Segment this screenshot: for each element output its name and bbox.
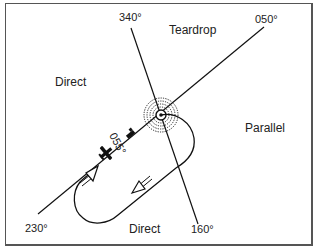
bearing-230-label: 230°: [25, 223, 48, 234]
bearing-160-label: 160°: [191, 224, 214, 235]
radial-340-160-line: [131, 28, 198, 224]
region-teardrop-label: Teardrop: [169, 24, 216, 36]
bearing-340-label: 340°: [119, 12, 142, 23]
inbound-arrow-icon: [80, 166, 98, 186]
region-direct-bottom-label: Direct: [129, 223, 160, 235]
wind-flag-icon: [124, 128, 135, 139]
region-direct-left-label: Direct: [55, 76, 86, 88]
region-parallel-label: Parallel: [245, 122, 285, 134]
bearing-050-label: 050°: [255, 14, 278, 25]
